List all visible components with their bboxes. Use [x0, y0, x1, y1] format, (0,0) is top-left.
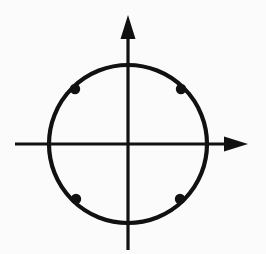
marked-point-upper-left: [70, 84, 80, 94]
marked-point-lower-left: [71, 194, 81, 204]
circle-diagram: [0, 0, 266, 254]
marked-point-lower-right: [175, 194, 185, 204]
figure-canvas: [0, 0, 266, 254]
marked-point-upper-right: [176, 84, 186, 94]
